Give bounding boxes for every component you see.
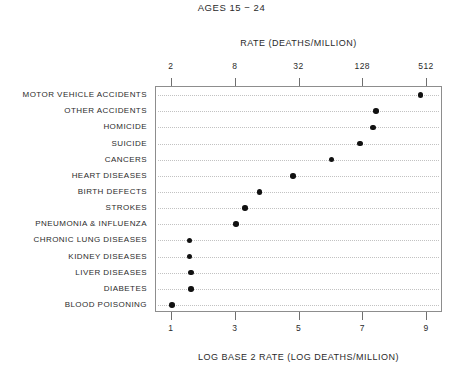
bottom-tick-label: 5 bbox=[296, 323, 301, 333]
category-label: PNEUMONIA & INFLUENZA bbox=[35, 219, 147, 228]
top-tick-label: 512 bbox=[418, 61, 433, 71]
bottom-tick-mark bbox=[362, 312, 363, 320]
bottom-tick-mark bbox=[299, 312, 300, 320]
bottom-tick-label: 1 bbox=[168, 323, 173, 333]
top-tick-label: 2 bbox=[168, 61, 173, 71]
gridline bbox=[158, 289, 439, 290]
gridline bbox=[158, 176, 439, 177]
data-point bbox=[370, 125, 376, 131]
data-point bbox=[418, 92, 424, 98]
gridline bbox=[158, 257, 439, 258]
category-axis-labels: MOTOR VEHICLE ACCIDENTSOTHER ACCIDENTSHO… bbox=[0, 86, 151, 312]
category-label: HEART DISEASES bbox=[72, 170, 147, 179]
category-label: DIABETES bbox=[104, 283, 147, 292]
bottom-tick-mark bbox=[426, 312, 427, 320]
category-label: CANCERS bbox=[105, 154, 147, 163]
top-tick-mark bbox=[426, 78, 427, 86]
bottom-tick-label: 7 bbox=[360, 323, 365, 333]
data-point bbox=[373, 108, 379, 114]
data-point bbox=[187, 254, 193, 260]
gridline bbox=[158, 160, 439, 161]
data-point bbox=[357, 141, 363, 147]
top-tick-mark bbox=[235, 78, 236, 86]
data-point bbox=[188, 286, 194, 292]
top-tick-mark bbox=[171, 78, 172, 86]
category-label: BLOOD POISONING bbox=[65, 299, 147, 308]
chart-figure: AGES 15 − 24 RATE (DEATHS/MILLION) MOTOR… bbox=[0, 0, 463, 378]
category-label: MOTOR VEHICLE ACCIDENTS bbox=[23, 90, 147, 99]
top-tick-label: 32 bbox=[293, 61, 303, 71]
category-label: STROKES bbox=[106, 203, 147, 212]
gridline bbox=[158, 224, 439, 225]
gridline bbox=[158, 240, 439, 241]
data-point bbox=[188, 270, 194, 276]
bottom-tick-label: 9 bbox=[423, 323, 428, 333]
bottom-tick-mark bbox=[171, 312, 172, 320]
gridline bbox=[158, 273, 439, 274]
gridline bbox=[158, 127, 439, 128]
gridline bbox=[158, 144, 439, 145]
data-point bbox=[233, 221, 239, 227]
category-label: KIDNEY DISEASES bbox=[68, 251, 147, 260]
category-label: SUICIDE bbox=[111, 138, 147, 147]
plot-area bbox=[155, 86, 442, 312]
chart-title: AGES 15 − 24 bbox=[0, 2, 463, 13]
data-point bbox=[290, 173, 296, 179]
top-tick-label: 8 bbox=[232, 61, 237, 71]
data-point bbox=[169, 302, 175, 308]
category-label: BIRTH DEFECTS bbox=[78, 186, 147, 195]
data-point bbox=[187, 238, 193, 244]
data-point bbox=[329, 157, 335, 163]
top-tick-mark bbox=[362, 78, 363, 86]
category-label: CHRONIC LUNG DISEASES bbox=[34, 235, 147, 244]
top-axis-title: RATE (DEATHS/MILLION) bbox=[155, 38, 442, 48]
gridline bbox=[158, 192, 439, 193]
bottom-tick-mark bbox=[235, 312, 236, 320]
top-tick-label: 128 bbox=[355, 61, 370, 71]
gridline bbox=[158, 305, 439, 306]
bottom-tick-label: 3 bbox=[232, 323, 237, 333]
category-label: OTHER ACCIDENTS bbox=[64, 106, 147, 115]
gridline bbox=[158, 111, 439, 112]
category-label: HOMICIDE bbox=[103, 122, 147, 131]
data-point bbox=[257, 189, 263, 195]
top-tick-mark bbox=[299, 78, 300, 86]
data-point bbox=[242, 205, 248, 211]
category-label: LIVER DISEASES bbox=[75, 267, 147, 276]
gridline bbox=[158, 95, 439, 96]
gridline bbox=[158, 208, 439, 209]
bottom-axis-title: LOG BASE 2 RATE (LOG DEATHS/MILLION) bbox=[155, 352, 442, 362]
